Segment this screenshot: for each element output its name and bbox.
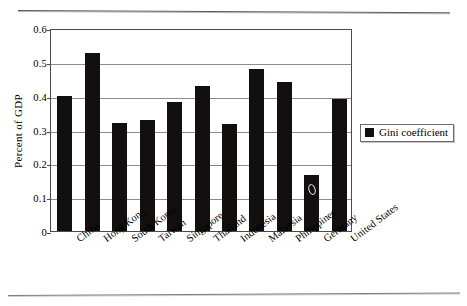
y-axis-title: Percent of GDP: [10, 29, 26, 232]
y-axis-tick-label: 0.4: [33, 92, 47, 103]
bar: [85, 53, 100, 231]
y-axis-tick-label: 0.6: [33, 25, 47, 36]
figure: Percent of GDP 00.10.20.30.40.50.6 China…: [0, 0, 467, 306]
bar: [112, 123, 127, 231]
y-axis-tick-mark: [47, 233, 51, 234]
x-axis-category-label: Indonesia: [239, 236, 245, 244]
x-axis-category-label: Germany: [322, 236, 328, 244]
y-axis-tick-mark: [47, 199, 51, 200]
y-axis-title-text: Percent of GDP: [12, 94, 24, 168]
legend: Gini coefficient: [360, 124, 454, 142]
y-axis-tick-label: 0.3: [33, 126, 47, 137]
x-axis-category-label: Taiwan: [157, 236, 163, 244]
bar-annotation-glyph: [307, 184, 317, 197]
x-axis-category-label: Philippines: [294, 236, 300, 244]
y-axis-tick-mark: [47, 98, 51, 99]
bar: [277, 82, 292, 231]
y-axis-tick-mark: [47, 165, 51, 166]
legend-label: Gini coefficient: [379, 127, 448, 138]
bar: [249, 69, 264, 231]
bar: [57, 96, 72, 231]
y-axis-tick-label: 0.5: [33, 59, 47, 70]
legend-swatch-icon: [365, 128, 374, 137]
bar: [222, 124, 237, 231]
page-rule-top: [18, 10, 450, 13]
x-axis-category-label: China: [75, 236, 81, 244]
x-axis-category-label: South Korea: [130, 236, 136, 244]
x-axis-category-label: Thailand: [212, 236, 218, 244]
x-axis-category-label: Singapore: [185, 236, 191, 244]
x-axis-category-label: Hong Kong: [102, 236, 108, 244]
x-axis-category-label: United States: [349, 236, 355, 244]
plot-area: 00.10.20.30.40.50.6: [50, 29, 352, 232]
bar: [195, 86, 210, 231]
y-axis-tick-label: 0.1: [33, 194, 47, 205]
y-axis-tick-label: 0.2: [33, 160, 47, 171]
y-axis-tick-mark: [47, 132, 51, 133]
x-axis-category-label: Malaysia: [267, 236, 273, 244]
y-axis-tick-mark: [47, 30, 51, 31]
y-axis-tick-mark: [47, 64, 51, 65]
